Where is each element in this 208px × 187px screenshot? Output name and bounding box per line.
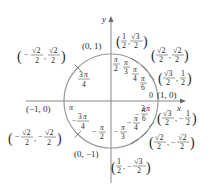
svg-text:2: 2: [100, 132, 104, 141]
svg-text:(: (: [8, 131, 13, 147]
x-axis-label: x: [176, 103, 181, 113]
svg-text:√3: √3: [134, 157, 142, 166]
svg-text:,: ,: [176, 74, 178, 83]
svg-text:): ): [192, 111, 197, 127]
svg-text:3: 3: [121, 132, 125, 141]
svg-text:√2: √2: [173, 46, 181, 55]
svg-text:,: ,: [44, 52, 46, 61]
angle-label-3pi-over-4: 3 π 4: [78, 70, 90, 89]
coord-label-neg-sqrt2-over-2-neg-sqrt2-over-2: ( − √2 2 , − √2 2 ): [8, 128, 62, 147]
svg-text:π: π: [100, 123, 104, 132]
angle-label-pi-over-2: π 2: [113, 55, 120, 73]
svg-text:2: 2: [165, 118, 169, 127]
svg-text:−: −: [127, 118, 131, 127]
svg-text:4: 4: [81, 122, 85, 131]
svg-text:2: 2: [25, 138, 29, 147]
svg-text:): ): [184, 48, 189, 64]
coord-label-sqrt3-over-2-half: ( √3 2 , 1 2 ): [158, 69, 192, 87]
svg-text:1: 1: [117, 157, 121, 166]
angle-label-neg-3pi-over-4: − 3 π 4: [72, 112, 89, 131]
svg-text:6: 6: [141, 83, 145, 92]
angle-label-pi: π: [69, 103, 74, 112]
coord-label-0-neg1: (0, −1): [74, 149, 99, 159]
svg-text:3: 3: [124, 67, 128, 76]
svg-text:): ): [143, 34, 148, 50]
svg-text:1: 1: [122, 32, 126, 41]
angle-label-neg-pi-over-2: − π 2: [92, 123, 106, 141]
coord-label-0-1: (0, 1): [82, 41, 102, 51]
svg-text:): ): [61, 49, 66, 65]
coord-label-neg-sqrt2-over-2-sqrt2-over-2: ( − √2 2 , √2 2 ): [17, 46, 66, 65]
y-axis-label: y: [101, 14, 106, 24]
svg-text:−: −: [38, 132, 43, 141]
svg-text:): ): [190, 135, 195, 151]
svg-text:4: 4: [133, 74, 137, 83]
svg-text:(: (: [111, 160, 116, 176]
svg-text:,: ,: [175, 114, 177, 123]
angle-label-pi-over-3: π 3: [123, 58, 130, 76]
svg-text:1: 1: [186, 109, 190, 118]
svg-text:(: (: [17, 49, 22, 65]
svg-text:2: 2: [181, 78, 185, 87]
svg-text:√2: √2: [178, 133, 186, 142]
svg-text:2: 2: [166, 78, 170, 87]
svg-text:): ): [146, 160, 151, 176]
svg-text:2: 2: [137, 166, 141, 175]
svg-text:2: 2: [117, 166, 121, 175]
svg-text:√3: √3: [164, 69, 172, 78]
svg-text:√2: √2: [155, 133, 163, 142]
svg-text:π: π: [124, 58, 128, 67]
svg-text:π: π: [84, 70, 88, 79]
svg-text:(: (: [158, 71, 163, 87]
coord-label-half-neg-sqrt3-over-2: ( 1 2 , − √3 2 ): [111, 157, 151, 176]
svg-text:−: −: [92, 127, 96, 136]
svg-text:π: π: [141, 74, 145, 83]
svg-text:2: 2: [180, 142, 184, 151]
svg-text:3: 3: [79, 70, 83, 79]
svg-text:√2: √2: [49, 46, 57, 55]
svg-text:2: 2: [47, 138, 51, 147]
coord-label-half-sqrt3-over-2: ( 1 2 , √3 2 ): [116, 32, 148, 50]
svg-text:,: ,: [167, 138, 169, 147]
svg-text:1: 1: [181, 69, 185, 78]
svg-text:2: 2: [51, 56, 55, 65]
coord-label-sqrt2-over-2-sqrt2-over-2: ( √2 2 , √2 2 ): [151, 46, 189, 64]
angle-label-zero: 0: [149, 91, 153, 100]
svg-text:4: 4: [134, 123, 138, 132]
y-axis-arrow-icon: [109, 16, 114, 22]
svg-text:π: π: [83, 112, 87, 121]
svg-text:(: (: [116, 34, 121, 50]
svg-text:2: 2: [157, 142, 161, 151]
svg-text:−: −: [171, 138, 176, 147]
svg-text:−: −: [24, 50, 29, 59]
svg-text:(: (: [149, 135, 154, 151]
svg-text:): ): [57, 131, 62, 147]
coord-label-neg1-0: (−1, 0): [26, 104, 51, 114]
svg-text:2: 2: [35, 56, 39, 65]
angle-label-neg-pi-over-3: − π 3: [114, 123, 127, 141]
coord-label-1-0: (1, 0): [157, 90, 177, 100]
svg-text:,: ,: [169, 51, 171, 60]
svg-text:2: 2: [114, 64, 118, 73]
svg-text:√3: √3: [163, 109, 171, 118]
svg-text:√2: √2: [32, 46, 40, 55]
svg-text:−: −: [72, 116, 76, 125]
svg-text:2: 2: [134, 41, 138, 50]
svg-text:−: −: [127, 162, 132, 171]
svg-text:(: (: [151, 48, 156, 64]
svg-text:−: −: [15, 132, 20, 141]
svg-text:π: π: [121, 123, 125, 132]
svg-text:2: 2: [175, 55, 179, 64]
svg-text:π: π: [142, 105, 146, 114]
svg-text:,: ,: [128, 37, 130, 46]
svg-text:√2: √2: [157, 46, 165, 55]
angle-label-pi-over-4: π 4: [132, 65, 139, 83]
svg-text:√3: √3: [131, 32, 139, 41]
svg-text:√2: √2: [45, 128, 53, 137]
svg-text:−: −: [179, 114, 184, 123]
svg-text:π: π: [146, 104, 151, 113]
svg-text:2: 2: [122, 41, 126, 50]
svg-text:2: 2: [186, 118, 190, 127]
svg-text:−: −: [114, 127, 118, 136]
unit-circle-diagram: x y π 2 π 3 π 4 π: [0, 0, 208, 187]
